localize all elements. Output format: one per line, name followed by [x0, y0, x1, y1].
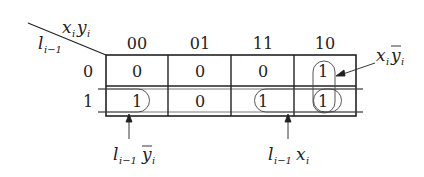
svg-text:l: l: [268, 144, 273, 164]
svg-text:y: y: [141, 144, 152, 164]
row-header-0: 0: [83, 62, 93, 81]
arrow-head-bottom-right: [285, 114, 291, 122]
arrow-head-top-right: [336, 70, 345, 76]
corner-row-label: l i−1: [38, 33, 62, 55]
svg-text:x: x: [296, 144, 306, 164]
svg-text:i: i: [306, 155, 309, 166]
svg-text:y: y: [76, 17, 87, 37]
svg-text:l: l: [113, 144, 118, 164]
label-l-xi: l i−1 x i: [268, 144, 309, 166]
label-xi-ybar: x i y i: [376, 45, 404, 67]
cell-1-01: 0: [195, 92, 205, 111]
label-l-ybar: l i−1 y i: [113, 144, 155, 166]
arrow-head-bottom-left: [126, 114, 132, 122]
cell-0-11: 0: [258, 62, 268, 81]
svg-text:i: i: [72, 28, 75, 39]
row-header-1: 1: [83, 92, 93, 111]
svg-text:y: y: [390, 45, 401, 65]
svg-text:i: i: [152, 155, 155, 166]
col-header-10: 10: [315, 34, 335, 53]
karnaugh-map: x i y i l i−1 00 01 11 10 0 1 0 0 0 1 1 …: [0, 0, 424, 177]
cell-0-01: 0: [195, 62, 205, 81]
svg-text:i−1: i−1: [119, 155, 137, 166]
svg-text:i−1: i−1: [44, 44, 62, 55]
arrow-top-right: [340, 63, 375, 75]
svg-text:i: i: [87, 28, 90, 39]
cell-0-10: 1: [318, 62, 328, 81]
cell-1-10: 1: [318, 92, 328, 111]
cell-1-00: 1: [132, 92, 142, 111]
corner-col-label: x i y i: [62, 17, 90, 39]
cell-0-00: 0: [132, 62, 142, 81]
svg-text:x: x: [376, 45, 386, 65]
col-header-01: 01: [190, 34, 210, 53]
svg-text:i−1: i−1: [274, 155, 292, 166]
cell-1-11: 1: [258, 92, 268, 111]
col-header-00: 00: [127, 34, 147, 53]
svg-text:x: x: [62, 17, 72, 37]
col-header-11: 11: [253, 34, 273, 53]
svg-text:i: i: [386, 56, 389, 67]
svg-text:l: l: [38, 33, 43, 53]
svg-text:i: i: [401, 56, 404, 67]
